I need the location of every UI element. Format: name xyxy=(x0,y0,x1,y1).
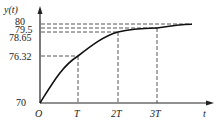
x-tick-3T: 3T xyxy=(149,108,162,119)
x-axis-arrow-icon xyxy=(206,101,214,106)
y-tick-70: 70 xyxy=(16,97,26,108)
origin-label: O xyxy=(35,108,42,119)
y-axis-arrow-icon xyxy=(38,6,43,14)
x-tick-T: T xyxy=(74,108,81,119)
step-response-chart: y(t) 80 79.5 78.65 76.32 70 O T 2T 3T t xyxy=(0,0,221,124)
response-curve xyxy=(40,24,192,103)
x-axis-label: t xyxy=(203,108,206,119)
x-tick-2T: 2T xyxy=(111,108,123,119)
y-tick-78-65: 78.65 xyxy=(9,32,32,43)
y-axis-label: y(t) xyxy=(3,4,19,16)
y-tick-76-32: 76.32 xyxy=(9,51,32,62)
